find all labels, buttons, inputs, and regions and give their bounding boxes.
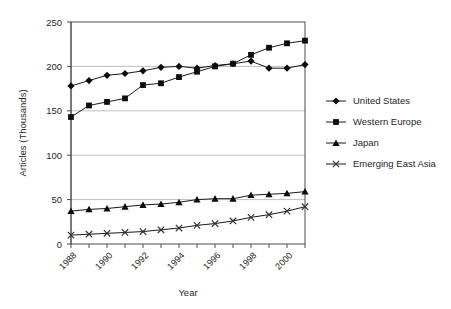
y-tick-label: 200 [46,61,62,72]
x-tick-label: 1996 [201,250,222,271]
data-point-marker-diamond [265,65,272,72]
data-point-marker-diamond [121,70,128,77]
data-point-marker-diamond [67,82,74,89]
data-series-group [67,38,308,239]
series-united-states [67,57,308,89]
x-tick-label: 1998 [237,250,258,271]
legend-item-japan: Japan [326,137,379,148]
data-point-marker-diamond [283,65,290,72]
y-tick-label: 50 [51,194,62,205]
data-point-marker-triangle [301,188,308,195]
y-tick-label: 150 [46,105,62,116]
science-articles-line-chart: 050100150200250 198819901992199419961998… [0,0,451,309]
data-point-marker-square [122,95,128,101]
axis-ticks [71,244,305,248]
x-axis-tick-labels: 1988199019921994199619982000 [57,250,294,271]
data-point-marker-diamond [157,64,164,71]
data-point-marker-square [302,38,308,44]
data-point-marker-square [140,82,146,88]
chart-legend: United StatesWestern EuropeJapanEmerging… [326,95,437,169]
series-japan [67,188,308,214]
x-tick-label: 1988 [57,250,78,271]
data-point-marker-square [86,103,92,109]
series-western-europe [68,38,308,120]
y-tick-label: 250 [46,17,62,28]
data-point-marker-square [104,99,110,105]
data-point-marker-diamond [247,57,254,64]
legend-label: Western Europe [353,116,421,127]
data-point-marker-square [248,52,254,58]
data-point-marker-diamond [332,97,339,104]
data-point-marker-square [176,74,182,80]
y-axis-title: Articles (Thousands) [17,89,28,176]
y-axis-tick-labels: 050100150200250 [46,17,62,250]
y-tick-label: 0 [57,239,62,250]
legend-item-western-europe: Western Europe [326,116,421,127]
data-point-marker-square [212,64,218,70]
x-tick-label: 1992 [129,250,150,271]
data-point-marker-square [68,114,74,120]
data-point-marker-square [194,69,200,75]
x-tick-label: 1990 [93,250,114,271]
x-axis-title: Year [178,287,197,298]
series-line [71,41,305,117]
x-tick-label: 2000 [273,250,294,271]
chart-canvas: 050100150200250 198819901992199419961998… [0,0,451,309]
data-point-marker-square [333,119,339,125]
legend-label: Japan [353,137,379,148]
legend-label: United States [353,95,410,106]
gridlines [67,22,305,244]
x-tick-label: 1994 [165,250,186,271]
legend-item-emerging-east-asia: Emerging East Asia [326,158,437,169]
data-point-marker-diamond [139,67,146,74]
data-point-marker-square [284,40,290,46]
data-point-marker-square [266,45,272,51]
legend-item-united-states: United States [326,95,410,106]
data-point-marker-square [230,61,236,67]
data-point-marker-diamond [85,77,92,84]
legend-label: Emerging East Asia [353,158,437,169]
y-tick-label: 100 [46,150,62,161]
data-point-marker-diamond [103,72,110,79]
data-point-marker-diamond [175,63,182,70]
data-point-marker-diamond [301,61,308,68]
data-point-marker-square [158,80,164,86]
